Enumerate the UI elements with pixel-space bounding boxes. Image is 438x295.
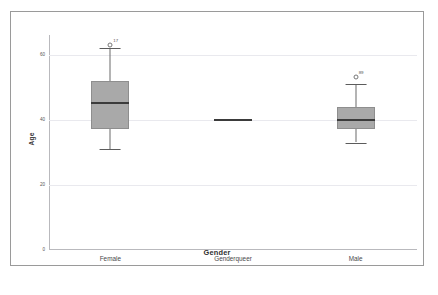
y-axis-tick-label: 60 bbox=[40, 52, 45, 57]
y-axis-tick-label: 40 bbox=[40, 117, 45, 122]
whisker-cap-lower bbox=[100, 149, 121, 150]
whisker-lower bbox=[355, 129, 356, 142]
y-axis-line bbox=[49, 35, 50, 250]
whisker-upper bbox=[110, 48, 111, 81]
y-axis-title: Age bbox=[28, 132, 35, 145]
x-axis-tick-label: Genderqueer bbox=[214, 256, 252, 262]
outlier-label: 17 bbox=[113, 39, 118, 43]
chart-screenshot: Age Gender 020406017FemaleGenderqueer89M… bbox=[0, 0, 438, 295]
chart-frame: Age Gender 020406017FemaleGenderqueer89M… bbox=[10, 11, 424, 266]
box-plot-male[interactable] bbox=[337, 35, 375, 250]
iqr-box bbox=[91, 81, 129, 130]
whisker-upper bbox=[355, 84, 356, 107]
whisker-cap-upper bbox=[345, 84, 366, 85]
median-line bbox=[337, 119, 375, 121]
whisker-cap-lower bbox=[345, 143, 366, 144]
whisker-cap-upper bbox=[100, 48, 121, 49]
box-plot-female[interactable] bbox=[91, 35, 129, 250]
x-axis-tick-label: Female bbox=[100, 256, 121, 262]
whisker-lower bbox=[110, 129, 111, 149]
x-axis-tick-label: Male bbox=[349, 256, 363, 262]
box-plot-genderqueer[interactable] bbox=[214, 35, 252, 250]
plot-area: 020406017FemaleGenderqueer89Male bbox=[49, 35, 417, 250]
median-line bbox=[91, 102, 129, 104]
y-axis-tick-label: 0 bbox=[42, 248, 45, 253]
outlier-label: 89 bbox=[359, 71, 364, 75]
outlier-point[interactable] bbox=[353, 75, 358, 80]
outlier-point[interactable] bbox=[108, 42, 113, 47]
median-line bbox=[214, 119, 252, 121]
y-axis-tick-label: 20 bbox=[40, 183, 45, 188]
